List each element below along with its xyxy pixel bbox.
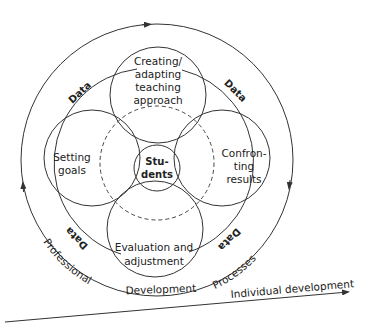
node-label-left: Setting goals: [53, 151, 91, 176]
data-label-bottom-right: Data: [216, 226, 243, 253]
data-label-top-right: Data: [222, 77, 249, 104]
students-label: Stu- dents: [141, 156, 173, 180]
svg-text:Setting: Setting: [53, 151, 91, 163]
svg-text:Evaluation and: Evaluation and: [115, 241, 194, 253]
outer-label-processes: Processes: [210, 252, 257, 291]
outer-label-development: Development: [125, 282, 196, 296]
svg-text:Creating/: Creating/: [134, 55, 183, 67]
svg-text:ting: ting: [234, 160, 254, 172]
svg-text:dents: dents: [141, 169, 173, 180]
svg-text:adapting: adapting: [135, 68, 182, 80]
svg-text:approach: approach: [133, 94, 182, 106]
svg-text:Stu-: Stu-: [145, 156, 168, 167]
data-label-top-left: Data: [66, 79, 93, 105]
node-label-bottom: Evaluation and adjustment: [115, 241, 194, 267]
data-label-bottom-left: Data: [63, 225, 90, 252]
svg-text:Confron-: Confron-: [221, 147, 266, 159]
svg-text:teaching: teaching: [135, 81, 181, 93]
node-label-top: Creating/ adapting teaching approach: [133, 55, 182, 106]
node-label-right: Confron- ting results: [221, 147, 266, 185]
svg-text:results: results: [226, 173, 261, 185]
cycle-diagram: Creating/ adapting teaching approach Set…: [0, 0, 367, 329]
students-circle: [134, 145, 180, 191]
svg-text:adjustment: adjustment: [124, 255, 184, 267]
svg-text:goals: goals: [58, 164, 86, 176]
